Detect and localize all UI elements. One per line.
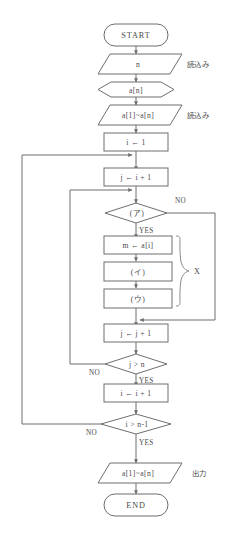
branch-label-cond-j-no: NO — [89, 369, 100, 377]
branch-label-cond-i-no: NO — [86, 429, 97, 437]
node-cond-a-label: (ア) — [130, 209, 144, 218]
node-cond-j: j > n — [105, 354, 167, 374]
node-cond-a: (ア) — [105, 203, 167, 223]
node-cond-j-label: j > n — [128, 360, 145, 369]
node-set-m: m ← a[i] — [104, 236, 172, 254]
node-incr-j: j ← j + 1 — [104, 324, 168, 342]
node-start-label: START — [121, 31, 150, 40]
branch-label-cond-i-yes: YES — [139, 439, 153, 447]
group-label-x: X — [194, 267, 200, 276]
node-start: START — [104, 24, 168, 46]
node-output-label: a[1]~a[n] — [122, 469, 154, 478]
node-step-u-label: (ウ) — [131, 295, 145, 304]
node-step-i2: (イ) — [104, 262, 172, 281]
node-end: END — [104, 494, 168, 516]
node-set-j-label: j ← i + 1 — [119, 173, 151, 182]
node-init-i: i ← 1 — [104, 133, 168, 151]
node-incr-i-label: i ← i + 1 — [120, 389, 151, 398]
node-step-i2-label: (イ) — [131, 268, 145, 277]
node-incr-i: i ← i + 1 — [104, 384, 168, 402]
node-cond-i-label: i > n-1 — [125, 420, 148, 429]
node-read-n: n — [98, 54, 182, 74]
node-prepare-an: a[n] — [98, 82, 174, 97]
annotation-output: 出力 — [192, 469, 207, 478]
node-read-array: a[1]~a[n] — [98, 105, 182, 125]
node-incr-j-label: j ← j + 1 — [119, 329, 151, 338]
node-set-j: j ← i + 1 — [104, 168, 168, 186]
node-prepare-an-label: a[n] — [129, 86, 143, 95]
node-read-array-label: a[1]~a[n] — [122, 111, 154, 120]
node-read-n-label: n — [136, 60, 140, 69]
annotation-read-array: 読込み — [187, 111, 209, 120]
branch-label-cond-a-no: NO — [175, 197, 186, 205]
node-cond-i: i > n-1 — [101, 414, 171, 434]
flowchart-svg: START n a[n] a[1]~a[n] i ← 1 j ← i + 1 (… — [0, 0, 229, 539]
annotation-read-n: 読込み — [187, 60, 209, 69]
node-set-m-label: m ← a[i] — [122, 241, 153, 250]
group-brace-x — [176, 236, 189, 306]
node-end-label: END — [126, 501, 146, 510]
node-init-i-label: i ← 1 — [126, 138, 145, 147]
branch-label-cond-a-yes: YES — [139, 227, 153, 235]
flowchart-canvas: START n a[n] a[1]~a[n] i ← 1 j ← i + 1 (… — [0, 0, 229, 539]
branch-label-cond-j-yes: YES — [139, 377, 153, 385]
node-output: a[1]~a[n] — [98, 463, 182, 483]
node-step-u: (ウ) — [104, 289, 172, 308]
